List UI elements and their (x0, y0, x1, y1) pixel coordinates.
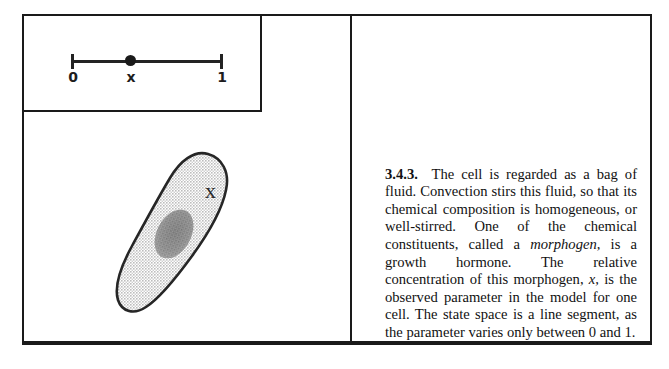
left-panel: 0 x 1 (24, 16, 350, 341)
section-number: 3.4.3. (385, 166, 418, 182)
segment-axis-line (71, 60, 223, 63)
cell-x-label: x (205, 180, 216, 202)
unit-interval-state-space: 0 x 1 (69, 44, 225, 88)
right-panel: 3.4.3. The cell is regarded as a bag of … (352, 16, 652, 341)
segment-label-x: x (119, 70, 143, 84)
state-space-inset-box: 0 x 1 (24, 16, 262, 112)
body-paragraph: 3.4.3. The cell is regarded as a bag of … (385, 166, 637, 342)
cell-blob: x (112, 142, 242, 322)
figure-frame: 0 x 1 (22, 14, 652, 345)
segment-label-one: 1 (210, 70, 234, 84)
cell-blob-svg (112, 142, 242, 322)
segment-label-zero: 0 (61, 70, 85, 84)
segment-endpoint-tick-right (220, 54, 223, 69)
segment-endpoint-tick-left (71, 54, 74, 69)
italic-variable-x: x, (589, 271, 599, 287)
segment-state-point-dot (125, 55, 136, 66)
italic-term-morphogen: morphogen, (530, 236, 600, 252)
